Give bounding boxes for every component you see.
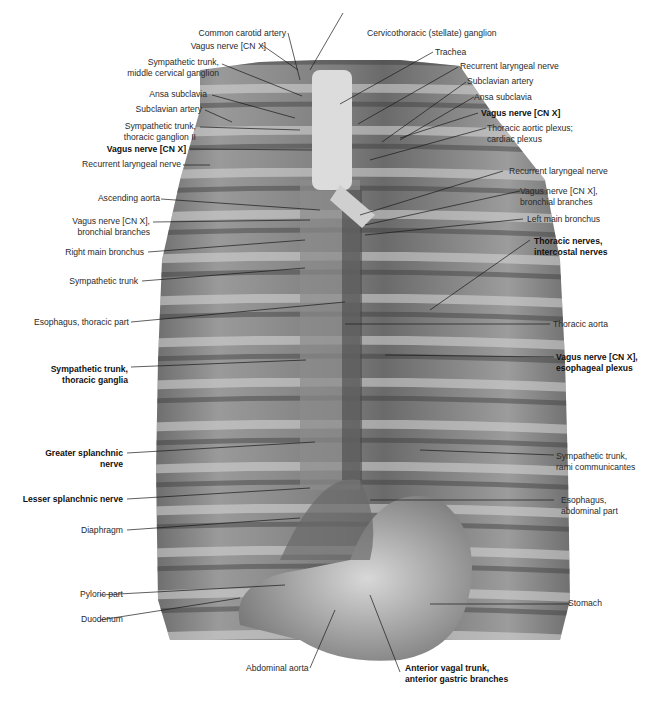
label-vagus-bronchial-branches-right: Vagus nerve [CN X],bronchial branches xyxy=(520,186,598,207)
label-thoracic-aortic-plexus: Thoracic aortic plexus;cardiac plexus xyxy=(487,123,573,144)
label-anterior-vagal-trunk: Anterior vagal trunk,anterior gastric br… xyxy=(405,663,508,684)
label-sympathetic-trunk: Sympathetic trunk xyxy=(69,276,138,287)
label-ansa-subclavia-right: Ansa subclavia xyxy=(474,92,532,103)
label-subclavian-artery: Subclavian artery xyxy=(136,104,202,115)
label-vagus-nerve: Vagus nerve [CN X] xyxy=(191,41,266,52)
label-recurrent-laryngeal-nerve-right: Recurrent laryngeal nerve xyxy=(460,61,559,72)
label-thoracic-aorta: Thoracic aorta xyxy=(553,319,608,330)
label-pyloric-part: Pyloric part xyxy=(80,589,123,600)
label-sympathetic-rami-communicantes: Sympathetic trunk,rami communicantes xyxy=(556,451,635,472)
label-esophagus-thoracic-part: Esophagus, thoracic part xyxy=(34,317,129,328)
label-abdominal-aorta: Abdominal aorta xyxy=(246,663,309,674)
label-trachea: Trachea xyxy=(435,47,466,58)
label-vagus-bronchial-branches: Vagus nerve [CN X],bronchial branches xyxy=(72,216,150,237)
label-sympathetic-trunk-thoracic-ganglia: Sympathetic trunk,thoracic ganglia xyxy=(51,364,128,385)
label-subclavian-artery-right: Subclavian artery xyxy=(467,76,533,87)
label-vagus-esophageal-plexus: Vagus nerve [CN X],esophageal plexus xyxy=(556,352,638,373)
label-duodenum: Duodenum xyxy=(81,614,123,625)
label-vagus-nerve-bold: Vagus nerve [CN X] xyxy=(107,144,186,155)
label-recurrent-laryngeal-nerve: Recurrent laryngeal nerve xyxy=(82,159,181,170)
label-thoracic-intercostal-nerves: Thoracic nerves,intercostal nerves xyxy=(534,236,608,257)
label-greater-splanchnic-nerve: Greater splanchnicnerve xyxy=(45,448,123,469)
label-left-main-bronchus: Left main bronchus xyxy=(527,214,600,225)
label-diaphragm: Diaphragm xyxy=(81,525,123,536)
label-sympathetic-trunk-thoracic-ganglion-ii: Sympathetic trunk,thoracic ganglion II xyxy=(124,121,196,142)
label-ascending-aorta: Ascending aorta xyxy=(98,193,160,204)
label-esophagus-abdominal-part: Esophagus,abdominal part xyxy=(561,495,618,516)
label-common-carotid-artery: Common carotid artery xyxy=(199,28,286,39)
anatomy-figure: Common carotid artery Vagus nerve [CN X]… xyxy=(0,0,662,702)
label-recurrent-laryngeal-nerve-right-2: Recurrent laryngeal nerve xyxy=(509,166,608,177)
label-right-main-bronchus: Right main bronchus xyxy=(65,247,144,258)
label-ansa-subclavia: Ansa subclavia xyxy=(149,89,207,100)
label-stomach: Stomach xyxy=(568,598,602,609)
label-vagus-nerve-right: Vagus nerve [CN X] xyxy=(481,108,560,119)
label-lesser-splanchnic-nerve: Lesser splanchnic nerve xyxy=(23,494,123,505)
label-sympathetic-trunk-middle-cervical-ganglion: Sympathetic trunk,middle cervical gangli… xyxy=(127,57,219,78)
label-cervicothoracic-ganglion: Cervicothoracic (stellate) ganglion xyxy=(367,28,496,39)
